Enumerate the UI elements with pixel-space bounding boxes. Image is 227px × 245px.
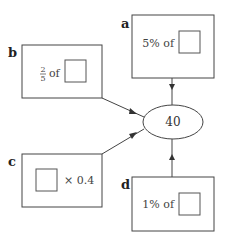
box-c-text: × 0.4 xyxy=(64,174,94,187)
arrowhead-c xyxy=(129,132,137,139)
box-c-answer-blank[interactable] xyxy=(36,169,57,191)
box-d-label: d xyxy=(121,177,130,192)
arrowhead-d xyxy=(169,154,175,160)
box-b-denominator: 5 xyxy=(40,74,45,83)
arrowhead-a xyxy=(169,84,175,90)
box-c: c × 0.4 xyxy=(8,154,102,207)
box-c-label: c xyxy=(8,154,16,169)
box-d-answer-blank[interactable] xyxy=(179,193,200,215)
box-a-answer-blank[interactable] xyxy=(179,31,200,53)
connector-b xyxy=(102,98,144,117)
arrowhead-b xyxy=(129,108,137,114)
box-a-label: a xyxy=(121,16,130,31)
box-d-text: 1% of xyxy=(142,198,175,211)
box-a-text: 5% of xyxy=(142,37,175,50)
box-b-numerator: 2 xyxy=(40,65,45,74)
connector-c xyxy=(102,129,144,154)
box-d: d 1% of xyxy=(121,177,214,231)
center-value: 40 xyxy=(165,115,180,129)
box-a: a 5% of xyxy=(121,15,214,78)
box-b: b 2 5 of xyxy=(8,45,102,98)
diagram-canvas: 40 a 5% of b 2 5 of c × 0.4 d 1% of xyxy=(0,0,227,245)
center-node: 40 xyxy=(143,105,203,139)
box-b-label: b xyxy=(8,45,17,60)
box-b-answer-blank[interactable] xyxy=(65,60,86,82)
box-b-text: of xyxy=(49,67,61,80)
